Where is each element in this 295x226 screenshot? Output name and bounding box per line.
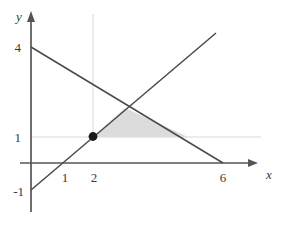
rising-line [31,33,216,190]
marked-point [89,132,98,141]
x-tick-label-2: 2 [91,170,98,185]
x-axis-arrowhead [248,159,258,167]
y-tick-label-1: 1 [15,130,22,145]
x-tick-label-6: 6 [220,170,227,185]
y-tick-label-4: 4 [15,40,22,55]
y-tick-label-minus-1: -1 [13,184,24,199]
y-axis-arrowhead [27,11,35,22]
falling-line [31,47,223,163]
coordinate-plane-figure: 4 1 -1 1 2 6 y x [0,0,295,226]
x-tick-label-1: 1 [62,170,69,185]
x-axis-label: x [265,167,272,182]
y-axis-label: y [14,9,22,24]
